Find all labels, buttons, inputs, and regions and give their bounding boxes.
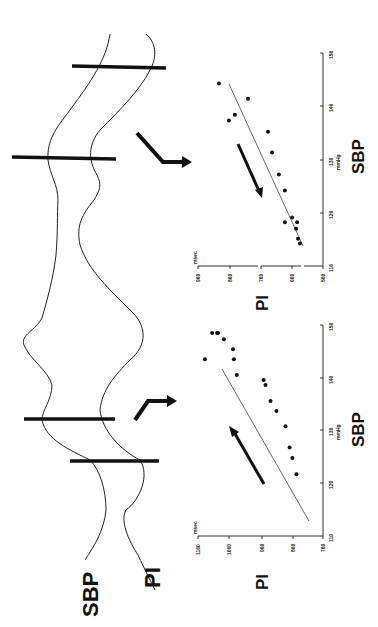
marker-bar-1 — [72, 66, 166, 68]
pi-tick: 560 — [320, 273, 326, 282]
data-point — [233, 113, 237, 117]
data-point — [246, 97, 250, 101]
data-point — [298, 242, 302, 246]
trend-arrow-icon — [234, 432, 264, 484]
pi-tick: 660 — [289, 273, 295, 282]
data-point — [296, 237, 300, 241]
sbp-tick: 156 — [328, 50, 334, 59]
sbp-tick: 150 — [328, 322, 334, 331]
figure: SBP PI 960 860 760 660 560 msec 116 126 … — [0, 0, 378, 627]
sbp-tick: 110 — [328, 534, 334, 542]
scatter-chart-right: 960 860 760 660 560 msec 116 126 136 146… — [192, 50, 368, 311]
data-points — [217, 81, 302, 245]
data-point — [232, 357, 236, 361]
data-point — [269, 399, 273, 403]
data-point — [277, 172, 281, 176]
bent-arrow-up-icon — [135, 401, 168, 420]
sbp-tick: 130 — [328, 427, 334, 436]
data-point — [294, 472, 298, 476]
pi-tick: 960 — [195, 273, 201, 282]
pi-trace — [79, 34, 155, 590]
sbp-tick: 126 — [328, 210, 334, 219]
sbp-tick: 116 — [328, 264, 334, 272]
pi-tick: 760 — [320, 543, 326, 552]
pi-axis-label: PI — [253, 574, 272, 590]
data-point — [227, 119, 231, 123]
regression-line — [229, 84, 303, 246]
pi-unit: msec — [192, 521, 198, 534]
data-point — [290, 456, 294, 460]
pi-axis-label: PI — [253, 295, 272, 311]
pi-unit: msec — [192, 251, 198, 264]
data-point — [266, 130, 270, 134]
sbp-tick: 146 — [328, 103, 334, 112]
data-point — [283, 188, 287, 192]
data-point — [210, 331, 214, 335]
data-point — [235, 373, 239, 377]
data-point — [290, 216, 294, 220]
bent-arrows — [135, 133, 192, 420]
data-point — [288, 445, 292, 449]
sbp-trace-label: SBP — [78, 572, 103, 617]
pi-tick: 960 — [259, 543, 265, 552]
data-point — [217, 81, 221, 85]
regression-line — [222, 369, 309, 521]
trend-arrow-icon — [238, 144, 259, 191]
data-point — [203, 357, 207, 361]
pi-tick: 860 — [290, 543, 296, 552]
sbp-trace — [23, 34, 110, 560]
data-point — [283, 220, 287, 224]
data-point — [274, 409, 278, 413]
sbp-unit: mmHg — [335, 424, 341, 440]
trend-arrowhead-icon — [255, 187, 263, 198]
pi-tick: 860 — [227, 273, 233, 282]
scatter-chart-left: 1160 1060 960 860 760 msec 110 120 130 1… — [192, 322, 368, 590]
data-point — [216, 331, 220, 335]
data-point — [262, 378, 266, 382]
marker-bar-2 — [12, 157, 116, 159]
data-point — [294, 227, 298, 231]
pi-tick: 760 — [258, 273, 264, 282]
sbp-tick: 120 — [328, 480, 334, 489]
sbp-axis-label: SBP — [349, 412, 368, 447]
arrowhead-icon — [182, 156, 192, 168]
trace-panel — [23, 34, 155, 590]
data-point — [231, 347, 235, 351]
pi-tick: 1060 — [226, 544, 232, 555]
pi-trace-label: PI — [140, 567, 165, 588]
sbp-tick: 140 — [328, 375, 334, 384]
data-point — [284, 424, 288, 428]
data-point — [295, 220, 299, 224]
data-point — [222, 337, 226, 341]
arrowhead-icon — [167, 395, 177, 407]
data-point — [264, 383, 268, 387]
sbp-axis-label: SBP — [349, 139, 368, 174]
pi-tick: 1160 — [195, 544, 201, 555]
bent-arrow-down-icon — [137, 133, 182, 162]
sbp-tick: 136 — [328, 157, 334, 166]
data-point — [270, 151, 274, 155]
data-points — [203, 331, 299, 476]
sbp-unit: mmHg — [335, 154, 341, 170]
